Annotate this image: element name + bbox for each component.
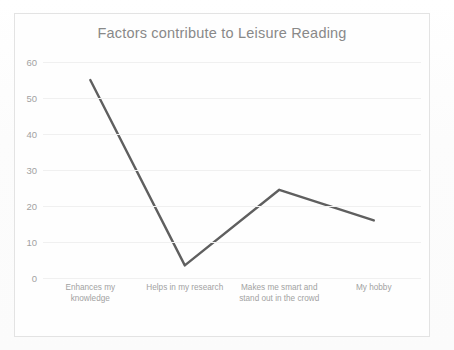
x-axis-category-label: Helps in my research [138,282,233,304]
x-axis-category-label: Enhances my knowledge [43,282,138,304]
x-axis-category-label: My hobby [327,282,422,304]
y-axis-tick-label: 10 [26,237,37,248]
gridline [43,242,421,243]
gridline [43,206,421,207]
y-axis-tick-label: 50 [26,93,37,104]
chart-frame: Factors contribute to Leisure Reading 01… [14,13,430,337]
chart-title: Factors contribute to Leisure Reading [15,25,429,41]
x-axis-labels: Enhances my knowledgeHelps in my researc… [43,282,421,304]
y-axis-tick-label: 40 [26,129,37,140]
gridline [43,278,421,279]
gridline [43,62,421,63]
gridline [43,98,421,99]
x-axis-category-label: Makes me smart and stand out in the crow… [232,282,327,304]
y-axis-tick-label: 60 [26,57,37,68]
y-axis-tick-label: 30 [26,165,37,176]
plot-area: 0102030405060 [43,62,421,278]
gridline [43,170,421,171]
series-polyline [90,80,374,265]
y-axis-tick-label: 20 [26,201,37,212]
gridline [43,134,421,135]
y-axis-tick-label: 0 [32,273,37,284]
